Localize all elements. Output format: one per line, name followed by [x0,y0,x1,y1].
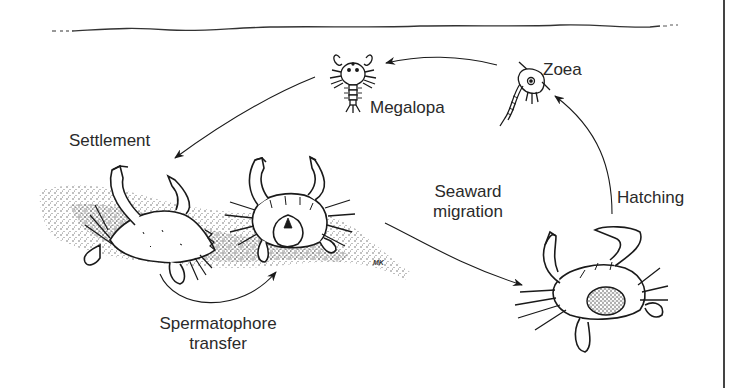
label-spermatophore-line1: Spermatophore [138,314,298,334]
figure-border-right [723,0,725,388]
label-seaward-line2: migration [418,202,518,222]
label-hatching: Hatching [617,188,684,208]
label-zoea: Zoea [543,60,582,80]
crab-life-cycle-diagram: Megalopa Zoea Settlement Hatching Seawar… [0,0,732,388]
label-spermatophore-transfer: Spermatophore transfer [138,314,298,354]
label-spermatophore-line2: transfer [138,334,298,354]
label-settlement: Settlement [69,131,150,151]
egg-bearing-crab-illustration [515,227,668,352]
arrow-hatching [555,96,612,214]
label-megalopa: Megalopa [370,98,445,118]
artist-initials: MK [373,259,384,266]
arrow-settlement [175,77,315,158]
arrow-zoea-to-megalopa [386,57,497,65]
water-surface-line [52,25,678,31]
label-seaward-migration: Seaward migration [418,182,518,222]
label-seaward-line1: Seaward [418,182,518,202]
